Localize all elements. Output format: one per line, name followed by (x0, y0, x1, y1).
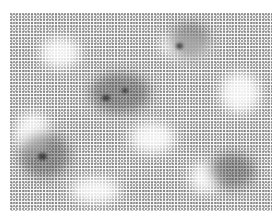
void-region (70, 178, 120, 203)
dark-spot (38, 153, 47, 160)
void-region (220, 73, 260, 113)
dense-cluster (90, 73, 150, 113)
void-region (40, 38, 80, 68)
dark-spot (122, 88, 128, 93)
micrograph-image (10, 13, 272, 211)
dense-cluster (210, 153, 255, 188)
dense-cluster (170, 23, 210, 58)
dark-spot (102, 95, 110, 101)
void-region (130, 123, 175, 153)
dark-spot (176, 43, 183, 49)
